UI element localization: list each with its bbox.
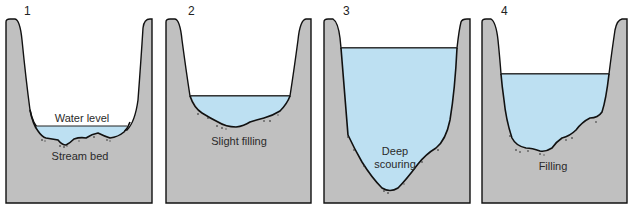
- deep-scouring-label: Deep scouring: [363, 145, 427, 171]
- rock-1: [6, 19, 152, 203]
- deep-scouring-label-line1: Deep: [363, 145, 427, 158]
- channel-cross-section-3: [318, 0, 476, 210]
- panel-1: 1 Water level Stream bed: [0, 0, 158, 210]
- panel-4: 4 Filling: [476, 0, 631, 210]
- stream-bed-label: Stream bed: [50, 150, 110, 163]
- water-level-label: Water level: [52, 112, 112, 125]
- panel-number: 1: [24, 4, 31, 18]
- panel-2: 2 Slight filling: [160, 0, 318, 210]
- panel-number: 2: [188, 4, 195, 18]
- panel-number: 3: [343, 4, 350, 18]
- panel-3: 3 Deep scouring: [318, 0, 476, 210]
- channel-cross-section-1: [0, 0, 158, 210]
- panel-number: 4: [501, 4, 508, 18]
- filling-label: Filling: [528, 160, 578, 173]
- slight-filling-label: Slight filling: [204, 135, 274, 148]
- channel-cross-section-2: [160, 0, 318, 210]
- deep-scouring-label-line2: scouring: [363, 158, 427, 171]
- channel-cross-section-4: [476, 0, 631, 210]
